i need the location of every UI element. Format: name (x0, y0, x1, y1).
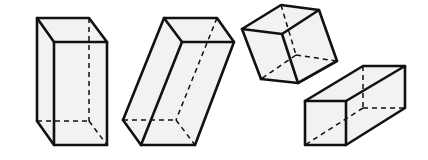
cube-rotated (242, 5, 337, 83)
prism-tilted (123, 18, 234, 145)
cuboids-diagram (0, 0, 428, 160)
prism-lying (305, 66, 405, 145)
prism-upright (37, 18, 107, 145)
